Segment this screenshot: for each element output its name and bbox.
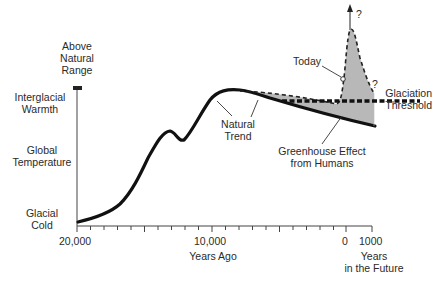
annotation-question-top: ? xyxy=(354,8,364,20)
annotation-natural-trend: Natural Trend xyxy=(214,118,262,142)
greenhouse-shaded-area xyxy=(240,29,374,126)
label-above-natural-range: Above Natural Range xyxy=(44,40,110,76)
above-natural-range-marker xyxy=(73,86,82,90)
tick-label-0: 0 xyxy=(342,235,348,247)
natural-trend-pointer-right xyxy=(251,100,258,117)
annotation-greenhouse-effect: Greenhouse Effect from Humans xyxy=(272,145,372,169)
annotation-today: Today xyxy=(290,55,324,67)
label-glacial-cold: Glacial Cold xyxy=(14,207,70,231)
today-pointer xyxy=(322,66,341,77)
x-axis-label-years-ago: Years Ago xyxy=(183,250,243,262)
up-arrow-icon xyxy=(347,4,353,12)
label-interglacial-warmth: Interglacial Warmth xyxy=(10,91,70,115)
natural-trend-pointer-left xyxy=(217,101,232,116)
tick-label-10000: 10,000 xyxy=(194,235,226,247)
tick-label-20000: 20,000 xyxy=(59,235,91,247)
today-marker xyxy=(341,77,346,82)
annotation-glaciation-threshold: Glaciation Threshold xyxy=(376,87,432,111)
label-global-temperature: Global Temperature xyxy=(8,144,76,168)
x-axis-label-future: Years in the Future xyxy=(336,250,412,274)
x-axis-ticks xyxy=(77,226,372,232)
greenhouse-pointer xyxy=(322,116,342,144)
tick-label-1000: 1000 xyxy=(359,235,382,247)
